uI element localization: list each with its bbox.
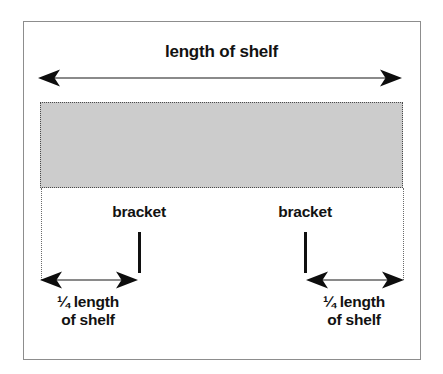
quarter-length-label-left-line1: ¼ length bbox=[57, 293, 119, 310]
length-of-shelf-arrow bbox=[30, 64, 410, 92]
quarter-length-label-right-line1: ¼ length bbox=[323, 293, 385, 310]
bracket-label-left: bracket bbox=[79, 203, 199, 221]
quarter-length-arrow-right bbox=[298, 266, 412, 294]
quarter-length-label-left-line2: of shelf bbox=[13, 311, 163, 329]
quarter-length-arrow-left bbox=[32, 266, 146, 294]
quarter-length-label-right-line2: of shelf bbox=[279, 311, 429, 329]
bracket-label-right: bracket bbox=[245, 203, 365, 221]
shelf-bracket-diagram: length of shelf bracket bracket ¼ length… bbox=[0, 0, 443, 374]
quarter-length-label-left: ¼ length of shelf bbox=[13, 293, 163, 330]
length-of-shelf-label: length of shelf bbox=[0, 42, 443, 62]
shelf-rectangle bbox=[40, 102, 403, 188]
quarter-length-label-right: ¼ length of shelf bbox=[279, 293, 429, 330]
